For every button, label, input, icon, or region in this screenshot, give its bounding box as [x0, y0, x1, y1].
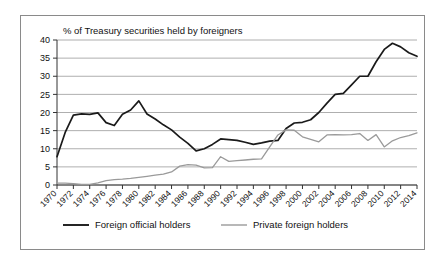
x-tick-label: 2004 [316, 188, 337, 209]
x-tick-label: 1988 [185, 188, 206, 209]
x-tick-label: 1994 [234, 188, 255, 209]
x-tick-label: 2008 [349, 188, 370, 209]
y-tick-label: 15 [40, 126, 50, 136]
y-tick-label: 20 [40, 108, 50, 118]
y-tick-label: 25 [40, 90, 50, 100]
x-tick-label: 2002 [300, 188, 321, 209]
x-tick-label: 1970 [38, 188, 59, 209]
x-tick-label: 2006 [333, 188, 354, 209]
x-tick-label: 2010 [365, 188, 386, 209]
y-tick-label: 40 [40, 35, 50, 45]
chart-canvas: 0510152025303540197019721974197619781980… [21, 16, 424, 249]
x-tick-label: 2012 [382, 188, 403, 209]
x-tick-label: 1996 [251, 188, 272, 209]
x-tick-label: 1984 [153, 188, 174, 209]
y-tick-label: 0 [45, 180, 50, 190]
y-tick-label: 30 [40, 71, 50, 81]
legend-label-2: Private foreign holders [253, 219, 348, 230]
y-tick-label: 35 [40, 53, 50, 63]
x-tick-label: 2014 [398, 188, 419, 209]
x-tick-label: 1980 [120, 188, 141, 209]
x-tick-label: 1998 [267, 188, 288, 209]
y-tick-label: 5 [45, 162, 50, 172]
x-tick-label: 1974 [71, 188, 92, 209]
x-tick-label: 1976 [87, 188, 108, 209]
series-line-1 [57, 43, 417, 156]
y-tick-label: 10 [40, 144, 50, 154]
series-line-2 [57, 130, 417, 184]
x-tick-label: 1982 [136, 188, 157, 209]
x-tick-label: 1990 [202, 188, 223, 209]
x-tick-label: 1978 [103, 188, 124, 209]
chart-figure: 0510152025303540197019721974197619781980… [20, 15, 425, 250]
chart-title: % of Treasury securities held by foreign… [63, 25, 243, 36]
x-tick-label: 1972 [54, 188, 75, 209]
x-tick-label: 1992 [218, 188, 239, 209]
x-tick-label: 2000 [283, 188, 304, 209]
x-tick-label: 1986 [169, 188, 190, 209]
legend-label-1: Foreign official holders [95, 219, 191, 230]
